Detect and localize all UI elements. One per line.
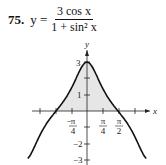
svg-text:−3: −3 <box>73 155 83 165</box>
y-arrow-icon <box>85 50 89 56</box>
svg-text:−2: −2 <box>73 139 83 149</box>
x-label: x <box>152 106 157 116</box>
x-arrow-icon <box>145 109 150 113</box>
svg-text:4: 4 <box>71 126 76 136</box>
svg-text:1: 1 <box>77 90 82 100</box>
svg-text:2: 2 <box>117 126 122 136</box>
svg-text:π: π <box>71 116 76 126</box>
graph: x y 3 1 −2 −3 −π4 π4 π2 <box>0 0 166 165</box>
svg-text:3: 3 <box>76 58 81 68</box>
svg-text:4: 4 <box>101 126 106 136</box>
svg-text:π: π <box>117 116 122 126</box>
svg-text:π: π <box>101 116 106 126</box>
y-label: y <box>84 39 89 49</box>
